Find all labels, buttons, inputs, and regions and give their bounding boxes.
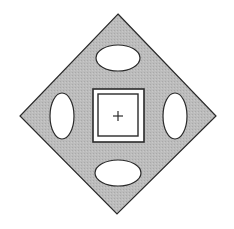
ellipse-hole-top [96, 45, 140, 71]
ellipse-hole-bottom [95, 160, 141, 186]
diamond-diagram [0, 0, 234, 229]
ellipse-hole-right [163, 93, 187, 139]
ellipse-hole-left [50, 93, 74, 139]
diagram-canvas [0, 0, 234, 229]
